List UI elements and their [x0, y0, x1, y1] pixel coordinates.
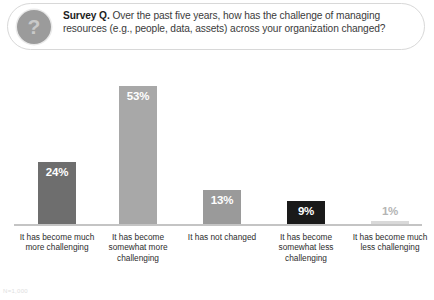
- bar-1: 53%: [119, 86, 157, 224]
- survey-question-card: ? Survey Q. Over the past five years, ho…: [7, 3, 425, 50]
- category-label-0: It has become much more challenging: [17, 232, 97, 253]
- survey-question-prefix: Survey Q.: [63, 10, 110, 21]
- bar-3: 9%: [287, 201, 325, 224]
- bar-column-3: 9% It has become somewhat less challengi…: [266, 50, 346, 300]
- bar-column-2: 13% It has not changed: [182, 50, 262, 300]
- category-label-3: It has become somewhat less challenging: [266, 232, 346, 263]
- chart-footnote: N=1,000: [3, 288, 28, 294]
- bar-2: 13%: [203, 190, 241, 224]
- bar-column-0: 24% It has become much more challenging: [17, 50, 97, 300]
- bar-column-1: 53% It has become somewhat more challeng…: [98, 50, 178, 300]
- question-mark-icon: ?: [17, 10, 51, 44]
- bar-value-1: 53%: [119, 90, 157, 102]
- bar-chart: 24% It has become much more challenging …: [0, 50, 434, 300]
- category-label-4: It has become much less challenging: [350, 232, 430, 253]
- category-label-1: It has become somewhat more challenging: [98, 232, 178, 263]
- bar-0: 24%: [38, 162, 76, 224]
- bar-4: 1%: [371, 221, 409, 224]
- bar-value-2: 13%: [203, 194, 241, 206]
- survey-question-body: Over the past five years, how has the ch…: [63, 10, 385, 34]
- bar-value-3: 9%: [287, 205, 325, 217]
- category-label-2: It has not changed: [182, 232, 262, 242]
- bar-value-0: 24%: [38, 166, 76, 178]
- survey-question-text: Survey Q. Over the past five years, how …: [63, 10, 415, 35]
- bar-column-4: 1% It has become much less challenging: [350, 50, 430, 300]
- question-mark-glyph: ?: [17, 10, 51, 44]
- bar-value-4: 1%: [371, 205, 409, 217]
